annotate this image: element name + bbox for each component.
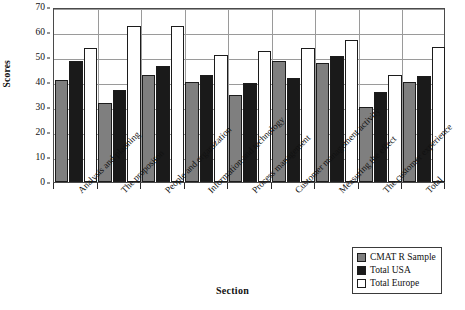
y-tick-mark bbox=[47, 108, 50, 109]
y-axis-title: Scores bbox=[2, 60, 18, 87]
y-tick-mark bbox=[47, 158, 50, 159]
y-tick-label: 20 bbox=[36, 128, 46, 138]
legend-swatch-icon bbox=[357, 266, 366, 275]
legend-item: Total Europe bbox=[357, 277, 436, 290]
y-tick-mark bbox=[47, 33, 50, 34]
bar-group bbox=[54, 9, 98, 182]
bar bbox=[330, 56, 344, 182]
legend-item-label: Total USA bbox=[370, 265, 411, 276]
bar bbox=[374, 92, 388, 182]
y-tick-label: 10 bbox=[36, 153, 46, 163]
bar bbox=[417, 76, 431, 182]
bar bbox=[214, 55, 228, 183]
bar bbox=[432, 47, 446, 182]
y-tick-mark bbox=[47, 133, 50, 134]
legend-swatch-icon bbox=[357, 253, 366, 262]
bar bbox=[258, 51, 272, 182]
bar bbox=[388, 75, 402, 183]
y-tick-label: 60 bbox=[36, 28, 46, 38]
bar bbox=[243, 83, 257, 182]
y-tick-label: 40 bbox=[36, 78, 46, 88]
y-tick-mark bbox=[47, 58, 50, 59]
y-tick-label: 50 bbox=[36, 53, 46, 63]
y-tick-label: 30 bbox=[36, 103, 46, 113]
bar bbox=[345, 40, 359, 183]
bar bbox=[113, 90, 127, 183]
y-tick-mark bbox=[47, 83, 50, 84]
bar bbox=[156, 66, 170, 182]
bar bbox=[55, 80, 69, 183]
bar bbox=[200, 75, 214, 183]
bar bbox=[127, 26, 141, 182]
y-tick-label: 70 bbox=[36, 3, 46, 13]
y-axis-ticks: 010203040506070 bbox=[20, 8, 49, 183]
y-tick-mark bbox=[47, 183, 50, 184]
bar bbox=[301, 48, 315, 182]
bar bbox=[287, 78, 301, 182]
y-tick-label: 0 bbox=[40, 178, 45, 188]
bar-chart: Scores 010203040506070 Analysis and plan… bbox=[0, 0, 465, 310]
legend-item-label: Total Europe bbox=[370, 278, 419, 289]
chart-legend: CMAT R SampleTotal USATotal Europe bbox=[352, 247, 442, 294]
bar bbox=[84, 48, 98, 182]
legend-item: Total USA bbox=[357, 264, 436, 277]
legend-swatch-icon bbox=[357, 279, 366, 288]
bar bbox=[171, 26, 185, 182]
legend-item-label: CMAT R Sample bbox=[370, 252, 436, 263]
legend-item: CMAT R Sample bbox=[357, 251, 436, 264]
bar bbox=[69, 61, 83, 182]
y-tick-mark bbox=[47, 8, 50, 9]
